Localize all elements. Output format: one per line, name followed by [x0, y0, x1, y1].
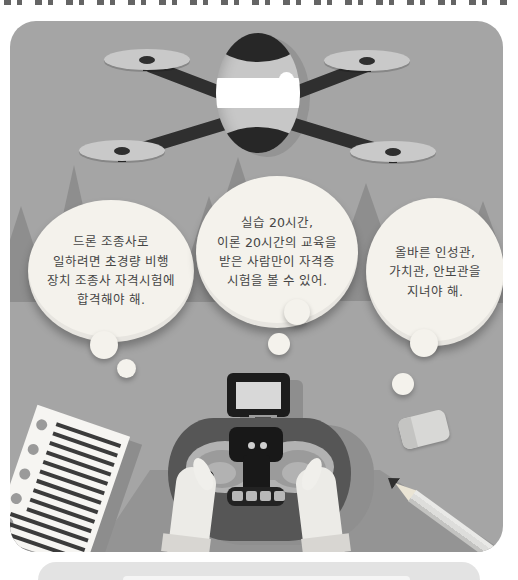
drone-rotor-upper-right — [324, 50, 410, 71]
bubble-text-line: 올바른 인성관, — [395, 243, 475, 262]
thought-bubble-left: 드론 조종사로 일하려면 초경량 비행 장치 조종사 자격시험에 합격해야 해. — [28, 200, 194, 342]
rotor-hub — [385, 148, 401, 156]
punch-hole — [10, 492, 23, 506]
bubble-tail-circle — [117, 359, 136, 378]
bubble-text-line: 드론 조종사로 — [73, 232, 149, 251]
thought-bubble-center: 실습 20시간, 이론 20시간의 교육을 받은 사람만이 자격증 시험을 볼 … — [196, 176, 358, 328]
controller-key — [232, 491, 243, 501]
bottom-card-inner — [123, 576, 410, 580]
drone-rotor-upper-left — [104, 49, 190, 70]
eraser-band — [397, 417, 418, 450]
bottom-card — [38, 562, 480, 580]
controller-key — [274, 491, 285, 501]
drone-bottom-cap — [216, 127, 300, 153]
controller-screen-display — [236, 382, 281, 409]
bubble-tail-circle — [284, 299, 310, 325]
drone-light-small — [268, 81, 274, 87]
panel-button — [260, 442, 267, 449]
rotor-hub — [114, 147, 130, 155]
punch-hole — [35, 418, 49, 432]
clipped-text-top — [4, 0, 510, 5]
screenshot-canvas: 드론 조종사로 일하려면 초경량 비행 장치 조종사 자격시험에 합격해야 해.… — [0, 0, 518, 580]
eraser — [397, 409, 451, 451]
punch-hole — [26, 442, 40, 456]
controller-key — [246, 491, 257, 501]
drone-body — [216, 33, 300, 153]
illustration-panel: 드론 조종사로 일하려면 초경량 비행 장치 조종사 자격시험에 합격해야 해.… — [10, 21, 503, 552]
bubble-text-line: 이론 20시간의 교육을 — [217, 233, 337, 252]
drone-rotor-lower-right — [350, 141, 436, 162]
rotor-hub — [359, 57, 375, 65]
bubble-tail-circle — [392, 373, 414, 395]
thought-bubble-right: 올바른 인성관, 가치관, 안보관을 지녀야 해. — [366, 198, 503, 346]
bubble-text-line: 받은 사람만이 자격증 — [219, 252, 335, 271]
controller-key — [260, 491, 271, 501]
drone-light-large — [279, 72, 294, 87]
bubble-tail-circle — [268, 333, 290, 355]
drone-rotor-lower-left — [79, 140, 165, 161]
bubble-text-line: 장치 조종사 자격시험에 — [47, 271, 175, 290]
drone-top-cap — [216, 33, 300, 62]
bubble-tail-circle — [90, 331, 118, 359]
bubble-text-line: 실습 20시간, — [241, 213, 313, 232]
bubble-text-line: 일하려면 초경량 비행 — [53, 252, 169, 271]
bubble-tail-circle — [410, 329, 438, 357]
rotor-hub — [139, 56, 155, 64]
punch-hole — [18, 467, 32, 481]
bubble-text-line: 가치관, 안보관을 — [389, 262, 481, 281]
panel-button — [248, 442, 255, 449]
bubble-text-line: 지녀야 해. — [407, 282, 463, 301]
bubble-text-line: 시험을 볼 수 있어. — [227, 271, 327, 290]
bubble-text-line: 합격해야 해. — [77, 290, 145, 309]
